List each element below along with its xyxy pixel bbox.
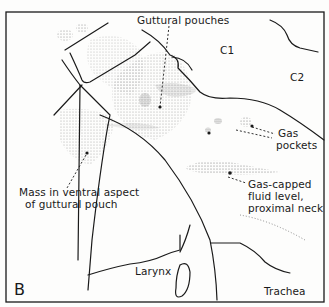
stippled-guttural-pouches — [57, 23, 196, 165]
label-gas-capped-1: Gas-capped — [248, 178, 312, 190]
label-gas-pockets-2: pockets — [276, 139, 317, 151]
label-gas-pockets-1: Gas — [278, 127, 298, 139]
label-gas-capped-2: fluid level, — [248, 190, 304, 202]
label-mass-2: of guttural pouch — [25, 198, 118, 210]
diagram-drawing — [0, 0, 329, 307]
stippled-gas-pockets — [205, 117, 252, 133]
panel-letter: B — [14, 284, 25, 296]
label-c2: C2 — [290, 71, 304, 83]
label-mass-1: Mass in ventral aspect — [19, 186, 139, 198]
label-larynx: Larynx — [135, 265, 171, 277]
label-gas-capped-3: proximal neck — [248, 202, 323, 214]
label-guttural-pouches: Guttural pouches — [137, 14, 229, 26]
diagram-figure: Guttural pouches C1 C2 Gas pockets Gas-c… — [0, 0, 329, 307]
label-trachea: Trachea — [264, 285, 306, 297]
label-c1: C1 — [220, 44, 234, 56]
